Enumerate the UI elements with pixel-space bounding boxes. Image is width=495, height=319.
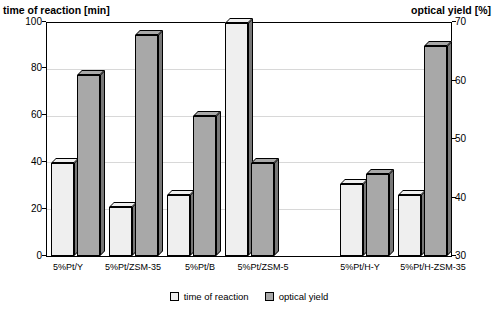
- y-tick-right-60: 60: [455, 75, 485, 86]
- bar-group: [225, 23, 274, 256]
- y-tick-right-50: 50: [455, 133, 485, 144]
- y-tick-right-30: 30: [455, 250, 485, 261]
- bar-optical-yield: [424, 46, 447, 256]
- bar-group: [109, 23, 158, 256]
- bar-group: [51, 23, 100, 256]
- bar-optical-yield: [135, 35, 158, 256]
- y-tick-left-60: 60: [12, 109, 42, 120]
- legend-item-time-of-reaction: time of reaction: [170, 291, 249, 302]
- bars-layer: [47, 23, 451, 256]
- bar-time-of-reaction: [51, 163, 74, 256]
- bar-time-of-reaction: [340, 184, 363, 256]
- bar-group: [167, 23, 216, 256]
- bar-time-of-reaction: [225, 23, 248, 256]
- bar-time-of-reaction: [167, 195, 190, 256]
- bar-group: [398, 23, 447, 256]
- y-tick-right-40: 40: [455, 192, 485, 203]
- right-axis-title: optical yield [%]: [411, 4, 491, 16]
- bar-time-of-reaction: [109, 207, 132, 256]
- bar-optical-yield: [77, 75, 100, 256]
- bar-time-of-reaction: [398, 195, 421, 256]
- legend-item-optical-yield: optical yield: [265, 291, 329, 302]
- left-axis-title: time of reaction [min]: [3, 4, 110, 16]
- bar-optical-yield: [251, 163, 274, 256]
- bar-optical-yield: [366, 174, 389, 256]
- plot-area: [46, 22, 452, 257]
- y-tick-left-40: 40: [12, 156, 42, 167]
- bar-group: [340, 23, 389, 256]
- y-tick-right-70: 70: [455, 16, 485, 27]
- legend-label-time-of-reaction: time of reaction: [184, 291, 249, 302]
- chart-figure: time of reaction [min] optical yield [%]…: [0, 0, 495, 319]
- y-tick-left-80: 80: [12, 62, 42, 73]
- y-tick-left-20: 20: [12, 203, 42, 214]
- x-label-3: 5%Pt/ZSM-5: [208, 262, 318, 272]
- legend-swatch-optical-yield: [265, 292, 274, 301]
- bar-optical-yield: [193, 116, 216, 256]
- legend-swatch-time-of-reaction: [170, 292, 179, 301]
- legend-label-optical-yield: optical yield: [279, 291, 329, 302]
- y-tick-left-100: 100: [12, 16, 42, 27]
- legend: time of reaction optical yield: [46, 286, 452, 306]
- y-tick-left-0: 0: [12, 250, 42, 261]
- x-label-6: 5%Pt/H-ZSM-35: [373, 262, 493, 272]
